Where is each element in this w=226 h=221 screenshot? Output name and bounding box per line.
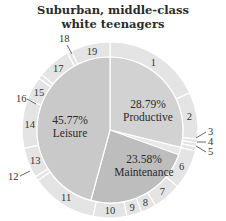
outer-label-6: 6 — [179, 161, 184, 172]
outer-label-15: 15 — [34, 87, 45, 98]
outer-label-17: 17 — [53, 63, 64, 74]
inner-percent-productive: 28.79% — [130, 98, 166, 110]
outer-label-5: 5 — [208, 146, 213, 157]
inner-percent-maintenance: 23.58% — [126, 153, 162, 165]
callout-line-12 — [20, 171, 30, 176]
outer-label-12: 12 — [8, 171, 19, 182]
outer-label-2: 2 — [187, 111, 192, 122]
outer-label-16: 16 — [16, 93, 27, 104]
outer-label-19: 19 — [87, 46, 98, 57]
outer-label-18: 18 — [59, 33, 70, 44]
pie-chart: 1234567891011121314151617181928.79%Produ… — [0, 0, 226, 221]
callout-line-5 — [196, 146, 206, 152]
outer-label-8: 8 — [143, 197, 148, 208]
inner-name-maintenance: Maintenance — [114, 166, 173, 178]
outer-label-7: 7 — [160, 186, 165, 197]
outer-label-1: 1 — [151, 57, 156, 68]
outer-label-11: 11 — [61, 192, 71, 203]
outer-label-10: 10 — [105, 205, 116, 216]
inner-percent-leisure: 45.77% — [52, 114, 88, 126]
inner-name-productive: Productive — [123, 111, 173, 123]
inner-name-leisure: Leisure — [53, 127, 87, 139]
outer-label-9: 9 — [130, 202, 135, 213]
outer-label-13: 13 — [30, 155, 41, 166]
outer-label-14: 14 — [24, 119, 35, 130]
